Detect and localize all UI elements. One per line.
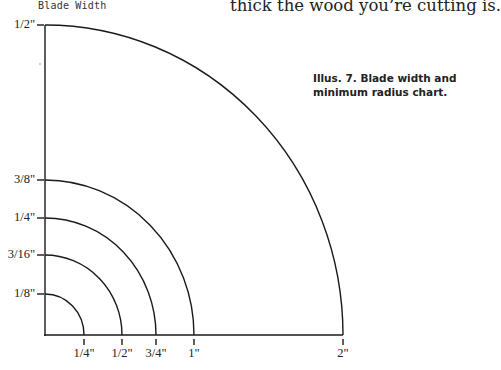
figure-caption: Illus. 7. Blade width and minimum radius…	[313, 71, 463, 99]
x-tick-label: 3/4"	[136, 346, 176, 361]
y-tick-label: 3/8"	[0, 172, 35, 187]
speck-mark	[39, 63, 41, 65]
caption-line-1: Illus. 7. Blade width and	[313, 71, 463, 85]
caption-line-2: minimum radius chart.	[313, 85, 463, 99]
y-tick-label: 1/4"	[0, 210, 35, 225]
arc-1-2-blade	[45, 25, 343, 335]
x-tick-label: 1/4"	[64, 346, 104, 361]
y-axis-title: Blade Width	[38, 0, 106, 11]
x-tick-label: 1"	[174, 346, 214, 361]
arc-1-4-blade	[45, 218, 156, 335]
body-text-fragment: thick the wood you’re cutting is.	[230, 0, 501, 15]
arc-1-8-blade	[45, 294, 84, 335]
arc-3-8-blade	[45, 180, 194, 335]
y-tick-label: 3/16"	[0, 247, 35, 262]
x-tick-label: 2"	[323, 346, 363, 361]
y-tick-label: 1/8"	[0, 286, 35, 301]
y-tick-label: 1/2"	[0, 17, 35, 32]
